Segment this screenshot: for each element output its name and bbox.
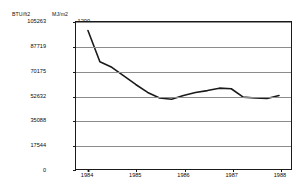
- left-axis-tick-label: 35088: [30, 117, 46, 123]
- gridline: [76, 22, 291, 23]
- left-axis-tick-label: 105263: [27, 18, 46, 24]
- y-axis-tick: [73, 170, 76, 171]
- x-axis-tick-label: 1987: [225, 172, 237, 178]
- gridline: [76, 47, 291, 48]
- left-axis-tick-label: 17544: [30, 142, 46, 148]
- x-axis-tick-label: 1988: [274, 172, 286, 178]
- left-axis-tick-label: 52632: [30, 93, 46, 99]
- y-axis-tick: [73, 47, 76, 48]
- gridline: [76, 97, 291, 98]
- y-axis-tick: [73, 121, 76, 122]
- y-axis-tick: [73, 72, 76, 73]
- left-axis-tick-labels: 10526387719701755263235088175440: [2, 0, 46, 188]
- gridline: [76, 146, 291, 147]
- left-axis-tick-label: 87719: [30, 43, 46, 49]
- y-axis-tick: [73, 97, 76, 98]
- x-axis-tick-label: 1985: [129, 172, 141, 178]
- x-axis-tick-labels: 19841985198619871988: [75, 172, 292, 182]
- left-axis-tick-label: 70175: [30, 68, 46, 74]
- x-axis-tick-label: 1986: [177, 172, 189, 178]
- x-axis-tick-label: 1984: [81, 172, 93, 178]
- plot-area: [75, 21, 292, 170]
- y-axis-tick: [73, 22, 76, 23]
- gridline: [76, 72, 291, 73]
- chart-container: BTU/ft2 MJ/m2 10526387719701755263235088…: [0, 0, 303, 188]
- gridline: [76, 121, 291, 122]
- y-axis-tick: [73, 146, 76, 147]
